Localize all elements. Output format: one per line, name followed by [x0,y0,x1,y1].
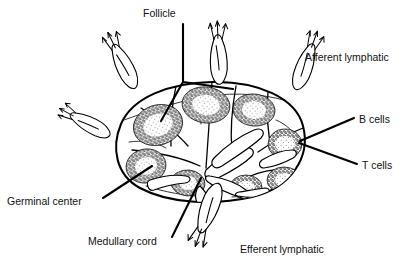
label-germinal-center: Germinal center [7,195,82,207]
label-efferent-lymphatic: Efferent lymphatic [240,243,324,255]
leader-t-cells [299,143,357,164]
afferent-lymphatic-vessel [56,100,115,142]
label-follicle: Follicle [143,7,176,19]
lymph-node-body [56,21,327,250]
label-t-cells: T cells [362,159,392,171]
label-medullary-cord: Medullary cord [88,235,157,247]
label-b-cells: B cells [359,113,390,125]
lymph-node-diagram: Follicle Afferent lymphatic B cells T ce… [0,0,409,261]
afferent-lymphatic-vessel [100,28,144,92]
leader-b-cells [300,118,354,141]
label-afferent-lymphatic: Afferent lymphatic [305,51,389,63]
afferent-lymphatic-vessel [208,21,230,85]
